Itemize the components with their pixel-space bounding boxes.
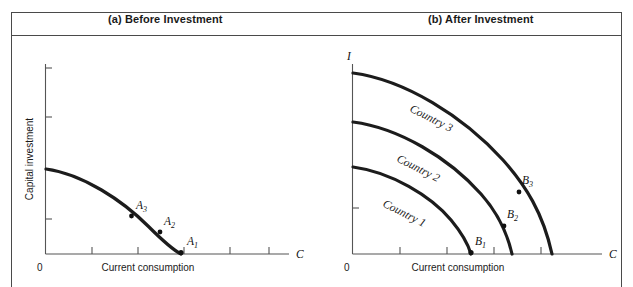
panel-b-label-B3-sub: 3 [528,180,533,189]
panel-b-ppf-country-2 [353,122,512,254]
panel-a-label-A3: A 3 [135,199,147,214]
panel-b-curve-label-country-3: Country 3 [408,102,455,135]
panel-a-y-axis-label: Capital investment [24,118,35,200]
panel-a-x-axis-symbol: C [296,248,304,260]
panel-title-after-investment: (b) After Investment [428,13,534,25]
panel-a-origin-label: 0 [37,262,43,273]
panel-a-point-A3 [129,214,134,219]
panel-b-label-B1-sub: 1 [482,241,486,250]
panel-a-point-A2 [158,230,163,235]
panel-b-point-B2 [502,224,507,229]
panel-b-label-B3-letter: B [522,174,529,186]
panel-b-x-axis-label: Current consumption [412,262,505,273]
panel-b-label-B2-letter: B [507,208,514,220]
panel-a-label-A1-sub: 1 [194,241,198,250]
panel-b-point-B1 [468,250,473,255]
panel-a-chart: A 3 A 2 A 1 Capital investment Current c… [24,64,304,273]
panel-b-y-axis-symbol: I [346,50,352,62]
panel-a-point-A1 [178,250,183,255]
panel-b-label-B1: B 1 [475,235,486,250]
panel-b-chart: B 3 B 2 B 1 Country 3 Country 2 Country … [344,50,617,273]
panel-b-label-B1-letter: B [475,235,482,247]
panel-b-label-B2-sub: 2 [514,214,518,223]
panel-b-point-B3 [517,190,522,195]
panel-b-curve-label-country-2: Country 2 [395,152,442,185]
panel-b-label-B2: B 2 [507,208,518,223]
figure-root: (a) Before Investment (b) After Investme… [0,0,633,287]
panel-b-origin-label: 0 [344,262,350,273]
charts-canvas: A 3 A 2 A 1 Capital investment Current c… [11,36,622,287]
panel-a-label-A1: A 1 [186,235,198,250]
panel-b-curve-label-country-1: Country 1 [381,197,428,230]
panel-title-before-investment: (a) Before Investment [108,13,223,25]
panel-b-ppf-country-3 [353,73,552,254]
panel-a-ppf-curve [46,169,181,254]
panel-a-label-A2: A 2 [163,215,175,230]
panel-a-label-A3-sub: 3 [142,205,147,214]
panel-b-x-axis-symbol: C [609,248,617,260]
panel-a-x-axis-label: Current consumption [102,262,195,273]
panel-a-label-A2-sub: 2 [171,221,175,230]
